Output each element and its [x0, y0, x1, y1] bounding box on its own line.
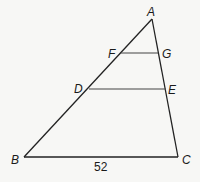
label-D: D — [74, 83, 83, 95]
geometry-diagram: A F G D E B C 52 — [0, 0, 200, 182]
label-B: B — [11, 154, 19, 166]
label-G: G — [162, 48, 171, 60]
label-F: F — [108, 48, 115, 60]
segment-AB — [24, 19, 152, 157]
length-label-BC: 52 — [94, 161, 107, 173]
label-C: C — [182, 154, 191, 166]
label-E: E — [168, 84, 176, 96]
label-A: A — [147, 6, 155, 18]
